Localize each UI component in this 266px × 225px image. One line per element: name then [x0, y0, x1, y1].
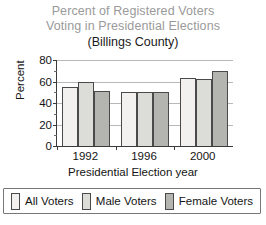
- plot-area: Percent 020406080 199219962000 President…: [0, 56, 266, 184]
- x-axis-label: Presidential Election year: [0, 166, 266, 178]
- x-axis-tick-label: 1996: [115, 150, 174, 162]
- legend-item[interactable]: Female Voters: [165, 193, 253, 210]
- y-axis-tick-label: 20: [39, 119, 52, 131]
- bar: [78, 82, 94, 147]
- x-axis-tick-label: 1992: [56, 150, 115, 162]
- y-axis-tick-label: 0: [46, 140, 52, 152]
- bar-group: [174, 60, 233, 146]
- bar: [94, 91, 110, 146]
- legend-label: Female Voters: [179, 195, 253, 207]
- bar: [121, 92, 137, 146]
- chart-title-line-2: Voting in Presidential Elections: [0, 19, 266, 34]
- legend-swatch: [82, 193, 91, 210]
- y-axis-tick-label: 60: [39, 76, 52, 88]
- chart-axes: [56, 60, 233, 147]
- legend-item[interactable]: Male Voters: [82, 193, 157, 210]
- legend-item[interactable]: All Voters: [11, 193, 74, 210]
- bar: [180, 78, 196, 146]
- legend-label: All Voters: [25, 195, 74, 207]
- bar-group: [57, 60, 116, 146]
- chart-legend: All VotersMale VotersFemale Voters: [3, 188, 261, 214]
- y-axis-tick-label: 80: [39, 54, 52, 66]
- chart-title-block: Percent of Registered Voters Voting in P…: [0, 4, 266, 50]
- x-axis-tick-label: 2000: [173, 150, 232, 162]
- x-axis-tick-labels: 199219962000: [56, 150, 232, 162]
- legend-swatch: [165, 193, 174, 210]
- bar: [196, 79, 212, 146]
- y-axis-label: Percent: [14, 86, 28, 100]
- bar-groups: [57, 60, 233, 146]
- bar: [62, 87, 78, 146]
- chart-subtitle: (Billings County): [0, 34, 266, 50]
- legend-label: Male Voters: [96, 195, 157, 207]
- bar: [137, 92, 153, 146]
- bar-group: [116, 60, 175, 146]
- y-axis-tick-label: 40: [39, 97, 52, 109]
- bar: [212, 71, 228, 146]
- y-axis-tick-labels: 020406080: [28, 60, 52, 146]
- legend-swatch: [11, 193, 20, 210]
- chart-title-line-1: Percent of Registered Voters: [0, 4, 266, 19]
- chart-figure: Percent of Registered Voters Voting in P…: [0, 0, 266, 225]
- bar: [153, 92, 169, 146]
